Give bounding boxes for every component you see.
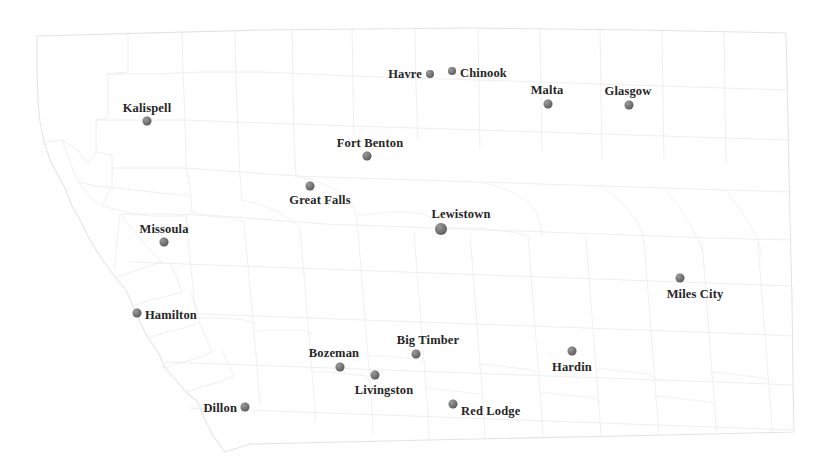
city-label-fort-benton: Fort Benton [337,137,404,150]
city-marker-malta[interactable] [544,100,553,109]
montana-cities-map: KalispellHavreChinookMaltaGlasgowFort Be… [0,0,813,460]
city-label-hardin: Hardin [552,361,592,374]
state-outline [37,28,794,452]
county-boundaries-horizontal [96,72,794,430]
city-label-malta: Malta [531,84,564,97]
city-marker-livingston[interactable] [371,371,380,380]
city-label-big-timber: Big Timber [397,334,460,347]
city-label-havre: Havre [388,68,422,81]
city-label-great-falls: Great Falls [289,194,350,207]
city-marker-big-timber[interactable] [412,350,421,359]
city-marker-bozeman[interactable] [336,363,345,372]
city-label-dillon: Dillon [203,402,237,415]
city-marker-chinook[interactable] [448,67,456,75]
city-label-hamilton: Hamilton [145,309,197,322]
city-marker-great-falls[interactable] [306,182,315,191]
city-marker-fort-benton[interactable] [363,152,372,161]
city-marker-hamilton[interactable] [133,309,142,318]
city-label-kalispell: Kalispell [123,102,172,115]
city-marker-dillon[interactable] [241,403,250,412]
city-marker-glasgow[interactable] [625,101,634,110]
city-label-bozeman: Bozeman [309,347,359,360]
city-marker-miles-city[interactable] [676,274,685,283]
city-marker-red-lodge[interactable] [449,400,458,409]
city-label-glasgow: Glasgow [605,85,652,98]
city-marker-lewistown[interactable] [435,223,447,235]
city-label-chinook: Chinook [460,67,507,80]
city-label-miles-city: Miles City [667,288,724,301]
city-label-livingston: Livingston [355,384,413,397]
city-marker-kalispell[interactable] [143,117,152,126]
city-marker-havre[interactable] [426,70,434,78]
city-marker-hardin[interactable] [568,347,577,356]
city-marker-missoula[interactable] [160,238,169,247]
city-label-missoula: Missoula [139,223,188,236]
city-label-lewistown: Lewistown [432,208,491,221]
city-label-red-lodge: Red Lodge [461,405,520,418]
